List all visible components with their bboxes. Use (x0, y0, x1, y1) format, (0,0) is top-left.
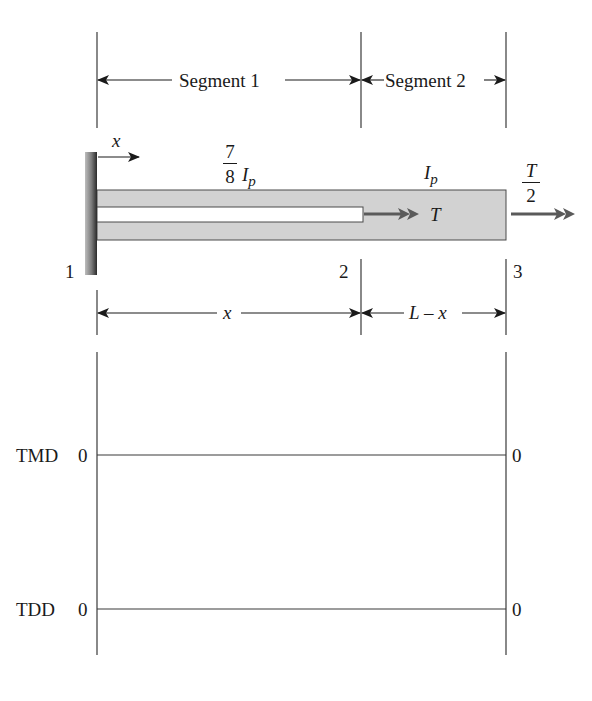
tmd-left-value: 0 (78, 446, 88, 465)
segment1-label: Segment 1 (179, 71, 260, 90)
fraction-bar (223, 163, 237, 164)
internal-torque-label: T (430, 205, 441, 224)
node-3-label: 3 (513, 262, 523, 281)
tmd-label: TMD (16, 446, 58, 465)
tdd-label: TDD (16, 600, 55, 619)
fixed-wall (85, 152, 97, 275)
fraction-numerator: T (522, 161, 540, 180)
fraction-denominator: 8 (223, 167, 237, 186)
segment1-inertia-fraction: 7 8 (223, 142, 237, 186)
fraction-bar (522, 182, 540, 183)
segment2-inertia-symbol: Ip (424, 163, 438, 187)
x-axis-label: x (112, 131, 120, 150)
segment2-label: Segment 2 (385, 71, 466, 90)
fraction-numerator: 7 (223, 142, 237, 161)
fraction-denominator: 2 (522, 186, 540, 205)
tdd-right-value: 0 (512, 600, 522, 619)
tmd-right-value: 0 (512, 446, 522, 465)
node-1-label: 1 (65, 262, 75, 281)
shaft-hollow-bore (97, 207, 363, 222)
end-torque-arrow (511, 208, 575, 220)
inertia-subscript: p (248, 173, 256, 189)
node-2-label: 2 (339, 262, 349, 281)
end-torque-fraction: T 2 (522, 161, 540, 205)
inertia-subscript: p (430, 171, 438, 187)
diagram-canvas (0, 0, 592, 701)
x-dimension-label: x (223, 303, 231, 322)
l-minus-x-dimension-label: L – x (409, 303, 447, 322)
node-ticks (97, 259, 506, 335)
segment1-inertia-symbol: Ip (242, 165, 256, 189)
tdd-left-value: 0 (78, 600, 88, 619)
